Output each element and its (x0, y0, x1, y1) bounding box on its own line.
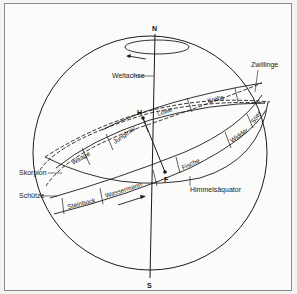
equator-label: Himmelsäquator (190, 186, 242, 194)
sign-krebs: Krebs (207, 93, 226, 104)
axis-label: Weltachse (112, 72, 145, 79)
point-h (141, 116, 145, 120)
motion-arrow (118, 197, 143, 205)
point-f (163, 170, 167, 174)
sign-widder: Widder (229, 126, 251, 144)
world-axis (150, 34, 155, 278)
polar-circle (125, 40, 189, 54)
sign-steinbock: Steinbock (67, 196, 97, 210)
sign-wassermann: Wassermann (104, 180, 143, 199)
sign-waage: Waage (70, 149, 92, 166)
skorpion-label: Skorpion (19, 169, 47, 177)
rotation-arrow-top (128, 56, 146, 59)
north-pole-label: N (152, 25, 157, 32)
arrowhead-icon (126, 54, 131, 58)
sign-jungfrau: Jungfrau (112, 124, 138, 145)
point-h-label: H (137, 109, 142, 116)
south-pole-label: S (147, 282, 152, 289)
point-f-label: F (164, 176, 169, 183)
sign-fische: Fische (180, 156, 201, 171)
celestial-sphere-diagram: N S H F Weltachse Himmelsäquator Zwillin… (0, 0, 297, 294)
zodiac-band-upper-top (102, 83, 262, 130)
equator-back (45, 100, 270, 157)
arrowhead-icon (140, 195, 146, 199)
schuetze-label: Schütze (19, 192, 44, 199)
zwillinge-label: Zwillinge (251, 61, 278, 69)
celestial-sphere (33, 36, 267, 270)
